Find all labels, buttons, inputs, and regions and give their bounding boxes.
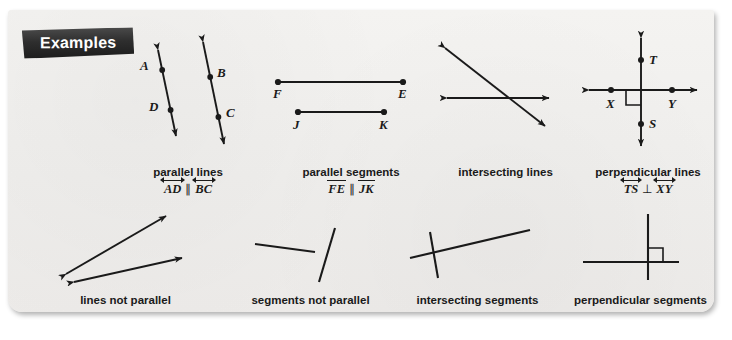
point-label-Y: Y	[668, 96, 676, 112]
point-K-dot	[381, 109, 387, 115]
parallel-lines-diagram	[118, 28, 258, 168]
textbook-figure-page: Examples	[0, 0, 732, 340]
caption-intersecting-lines: intersecting lines	[423, 166, 588, 178]
notation-perpendicular-lines: TS⊥XY	[573, 182, 714, 197]
notation-parallel-lines: AD∥BC	[118, 182, 258, 197]
point-label-E: E	[398, 86, 407, 102]
figure-lines-not-parallel: lines not parallel	[38, 206, 213, 306]
notation-symbol-parallel-seg: ∥	[346, 182, 358, 196]
examples-banner-label: Examples	[40, 34, 116, 52]
point-B-dot	[207, 74, 213, 80]
notation-left-TS: TS	[623, 182, 640, 197]
parallel-segments-diagram	[256, 28, 446, 168]
notation-right-JK: JK	[358, 182, 375, 197]
point-D-dot	[168, 107, 174, 113]
point-label-T: T	[649, 52, 657, 68]
intersecting-lines-diagram	[423, 28, 588, 168]
caption-intersecting-segments: intersecting segments	[390, 294, 565, 306]
diagonal-line	[445, 48, 545, 126]
notation-parallel-segments: FE∥JK	[256, 182, 446, 197]
point-A-dot	[159, 67, 165, 73]
point-label-F: F	[273, 86, 282, 102]
point-X-dot	[608, 87, 614, 93]
lines-not-parallel-diagram	[38, 206, 213, 286]
point-label-X: X	[606, 96, 615, 112]
point-E-dot	[400, 79, 406, 85]
notation-left-AD: AD	[163, 182, 182, 197]
point-J-dot	[295, 109, 301, 115]
caption-perpendicular-segments: perpendicular segments	[553, 294, 714, 306]
caption-lines-not-parallel: lines not parallel	[38, 294, 213, 306]
point-label-S: S	[649, 116, 656, 132]
caption-parallel-segments: parallel segments	[256, 166, 446, 178]
figure-intersecting-lines: intersecting lines	[423, 28, 588, 198]
perpendicular-segments-diagram	[553, 206, 714, 286]
caption-parallel-lines: parallel lines	[118, 166, 258, 178]
notation-right-BC: BC	[194, 182, 213, 197]
point-label-C: C	[226, 105, 235, 121]
near-vertical-segment	[319, 228, 335, 282]
point-C-dot	[216, 114, 222, 120]
near-horizontal-segment	[255, 244, 315, 252]
examples-card: Examples	[8, 10, 714, 312]
notation-symbol-perpendicular: ⊥	[639, 182, 655, 196]
caption-segments-not-parallel: segments not parallel	[223, 294, 398, 306]
point-S-dot	[638, 121, 644, 127]
point-label-B: B	[217, 65, 226, 81]
right-angle-marker	[626, 90, 641, 105]
figure-segments-not-parallel: segments not parallel	[223, 206, 398, 306]
notation-left-FE: FE	[327, 182, 346, 197]
point-label-A: A	[140, 58, 149, 74]
figure-parallel-segments: F E J K parallel segments FE∥JK	[256, 28, 446, 198]
figure-intersecting-segments: intersecting segments	[390, 206, 565, 306]
lower-line	[74, 258, 182, 282]
figure-parallel-lines: A B C D parallel lines AD∥BC	[118, 28, 258, 198]
right-angle-marker	[648, 248, 663, 262]
notation-right-XY: XY	[655, 182, 673, 197]
perpendicular-lines-diagram	[573, 28, 714, 168]
line-AD	[158, 50, 176, 136]
point-F-dot	[275, 79, 281, 85]
point-T-dot	[638, 57, 644, 63]
point-label-J: J	[293, 117, 300, 133]
figure-perpendicular-lines: T X Y S perpendicular lines TS⊥XY	[573, 28, 714, 198]
segments-not-parallel-diagram	[223, 206, 398, 286]
point-label-D: D	[149, 99, 158, 115]
intersecting-segments-diagram	[390, 206, 565, 286]
examples-banner: Examples	[22, 27, 134, 58]
point-Y-dot	[669, 87, 675, 93]
caption-perpendicular-lines: perpendicular lines	[573, 166, 714, 178]
long-segment	[410, 230, 530, 258]
short-steep-segment	[430, 232, 438, 278]
point-label-K: K	[379, 117, 388, 133]
notation-symbol-parallel: ∥	[182, 182, 194, 196]
figure-perpendicular-segments: perpendicular segments	[553, 206, 714, 306]
line-BC	[203, 42, 224, 144]
